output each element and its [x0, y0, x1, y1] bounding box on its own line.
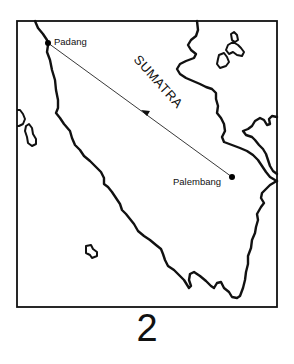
route-arrowhead-icon	[141, 110, 150, 116]
island-north-west	[217, 53, 229, 68]
palembang-city-dot	[229, 174, 235, 180]
island-southwest	[86, 245, 97, 258]
figure-number: 2	[0, 308, 294, 348]
island-north-large	[226, 42, 244, 56]
eastern-landmass-coastline	[243, 116, 277, 174]
island-north-small	[231, 32, 238, 42]
sumatra-west-coastline	[35, 21, 277, 298]
island-west-edge	[17, 110, 25, 126]
island-west	[25, 124, 36, 146]
sumatra-region-label: SUMATRA	[131, 52, 186, 111]
padang-city-dot	[45, 40, 51, 46]
palembang-label: Palembang	[173, 176, 221, 187]
padang-label: Padang	[54, 36, 87, 47]
